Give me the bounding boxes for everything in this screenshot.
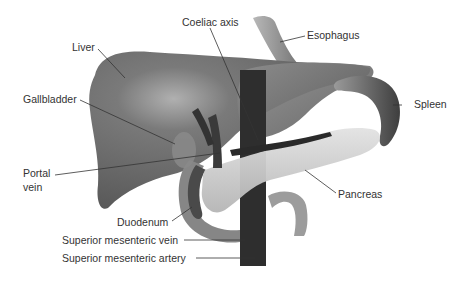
label-gallbladder: Gallbladder [23,93,77,105]
gallbladder-shape [172,132,196,168]
label-spleen: Spleen [414,98,447,110]
leader-esophagus [280,36,305,42]
leader-pancreas [305,170,336,193]
label-portal-vein: vein [23,181,42,193]
label-duodenum: Duodenum [117,216,168,228]
label-coeliac-axis: Coeliac axis [182,16,239,28]
label-portal: Portal [23,167,50,179]
label-superior-mesenteric-artery: Superior mesenteric artery [62,252,186,264]
label-liver: Liver [72,41,95,53]
jejunum-shape [268,191,307,236]
label-superior-mesenteric-vein: Superior mesenteric vein [62,234,178,246]
label-pancreas: Pancreas [338,188,382,200]
label-esophagus: Esophagus [307,29,360,41]
